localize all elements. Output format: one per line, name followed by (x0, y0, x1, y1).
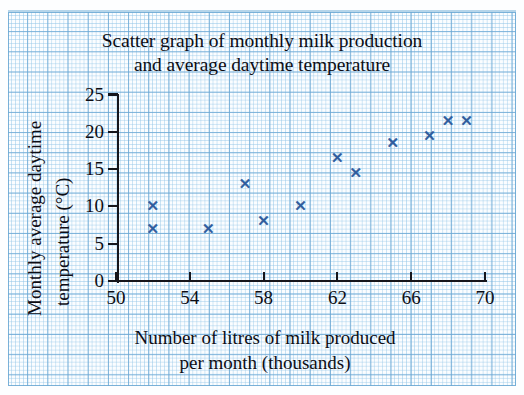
y-tick-label-25: 25 (68, 85, 104, 104)
data-point-5: ✕ (294, 199, 308, 213)
x-tick-label-58: 58 (242, 288, 286, 307)
y-tick-20 (108, 131, 118, 133)
x-axis-line (116, 280, 487, 282)
y-tick-5 (108, 243, 118, 245)
x-tick-58 (263, 272, 265, 282)
data-point-9: ✕ (423, 129, 437, 143)
y-axis-line (117, 94, 119, 283)
data-point-4: ✕ (257, 214, 271, 228)
y-tick-label-5: 5 (68, 234, 104, 253)
y-tick-label-20: 20 (68, 122, 104, 141)
data-point-6: ✕ (330, 151, 344, 165)
x-tick-50 (115, 272, 117, 282)
data-point-7: ✕ (349, 166, 363, 180)
y-tick-10 (108, 205, 118, 207)
data-point-1: ✕ (146, 222, 160, 236)
y-tick-label-10: 10 (68, 196, 104, 215)
scatter-chart-figure: Scatter graph of monthly milk production… (0, 0, 524, 395)
x-tick-label-62: 62 (315, 288, 359, 307)
x-tick-label-50: 50 (94, 288, 138, 307)
x-tick-label-54: 54 (168, 288, 212, 307)
data-point-2: ✕ (201, 222, 215, 236)
x-tick-label-66: 66 (389, 288, 433, 307)
data-point-10: ✕ (441, 114, 455, 128)
data-point-8: ✕ (386, 136, 400, 150)
data-point-3: ✕ (238, 177, 252, 191)
x-tick-66 (410, 272, 412, 282)
y-tick-25 (108, 93, 118, 95)
data-point-0: ✕ (146, 199, 160, 213)
x-tick-label-70: 70 (463, 288, 507, 307)
x-tick-62 (336, 272, 338, 282)
y-tick-label-15: 15 (68, 159, 104, 178)
plot-area: 0510152025 505458626670 ✕✕✕✕✕✕✕✕✕✕✕✕ (0, 0, 524, 395)
x-tick-70 (484, 272, 486, 282)
data-point-11: ✕ (460, 114, 474, 128)
y-tick-15 (108, 168, 118, 170)
x-tick-54 (189, 272, 191, 282)
